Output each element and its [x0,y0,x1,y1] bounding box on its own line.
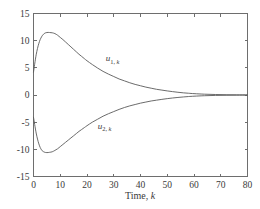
y-tick-label: -15 [17,172,30,182]
x-tick-label: 20 [82,180,92,190]
figure-container: 01020304050607080 -15-10-5051015 u1, ku2… [0,0,260,209]
x-tick-label: 40 [136,180,146,190]
series-group [34,32,248,152]
x-axis-tick-labels: 01020304050607080 [31,180,252,190]
y-tick-label: 5 [25,63,30,73]
y-tick-label: -5 [22,118,30,128]
x-tick-label: 0 [31,180,36,190]
u2-label: u2, k [98,121,112,132]
y-tick-label: 0 [25,90,30,100]
x-tick-label: 30 [109,180,119,190]
y-tick-label: 10 [20,36,30,46]
y-tick-label: 15 [20,9,30,19]
curve-annotations: u1, ku2, k [98,53,120,132]
x-tick-label: 50 [163,180,173,190]
chart-svg: 01020304050607080 -15-10-5051015 u1, ku2… [0,0,260,209]
x-axis-title: Time, k [125,190,156,201]
y-axis-tick-labels: -15-10-5051015 [17,9,30,182]
x-tick-label: 10 [56,180,66,190]
u1-label: u1, k [106,53,120,64]
x-tick-label: 70 [216,180,226,190]
x-tick-label: 80 [243,180,253,190]
x-tick-label: 60 [189,180,199,190]
series-line-u1k [34,32,248,94]
y-tick-label: -10 [17,145,30,155]
series-line-u2k [34,95,248,152]
